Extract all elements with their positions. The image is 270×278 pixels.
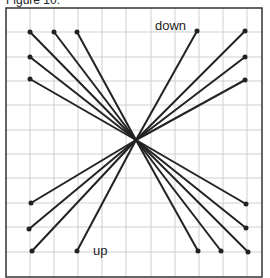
endpoint-dot [244,202,249,207]
radiating-line [136,31,245,140]
endpoint-dot [243,55,248,60]
endpoint-dot [243,78,248,83]
endpoint-dot [244,226,249,231]
endpoint-dot [28,77,33,82]
endpoint-dot [30,249,35,254]
label-up: up [93,243,107,258]
endpoint-dot [27,227,32,232]
radiating-line [136,57,245,140]
endpoint-dot [28,55,33,60]
endpoint-dot [75,30,80,35]
endpoint-dot [52,30,57,35]
endpoint-dot [219,249,224,254]
radiating-line [136,140,198,251]
radiating-line [136,140,221,251]
radiating-line [136,140,246,228]
radiating-line [29,140,136,229]
endpoint-dot [243,29,248,34]
radiating-lines [27,29,251,255]
endpoint-dot [28,30,33,35]
label-down: down [155,18,186,33]
endpoint-dot [29,201,34,206]
endpoint-dot [246,250,251,255]
endpoint-dot [195,29,200,34]
radiating-line [30,32,136,140]
endpoint-dot [196,249,201,254]
radiating-line [32,140,136,251]
line-diagram: down up [0,0,270,278]
endpoint-dot [75,249,80,254]
